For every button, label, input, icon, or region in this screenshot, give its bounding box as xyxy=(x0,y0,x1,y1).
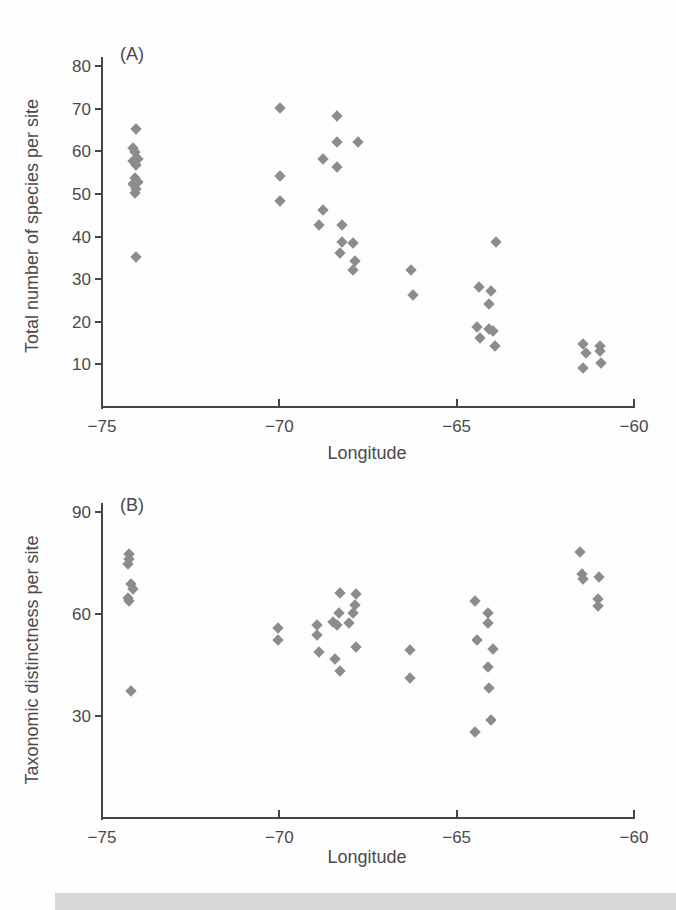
data-point-diamond xyxy=(313,646,324,657)
panel-b-label: (B) xyxy=(120,496,144,514)
data-point-diamond xyxy=(352,136,363,147)
data-point-diamond xyxy=(475,332,486,343)
data-point-diamond xyxy=(595,346,606,357)
data-point-diamond xyxy=(351,641,362,652)
data-point-diamond xyxy=(471,321,482,332)
data-point-diamond xyxy=(347,264,358,275)
data-point-diamond xyxy=(351,589,362,600)
x-tick-label: −65 xyxy=(442,418,471,435)
data-point-diamond xyxy=(482,618,493,629)
data-point-diamond xyxy=(274,170,285,181)
panel-a-ylabel: Total number of species per site xyxy=(22,56,42,396)
y-tick-label: 90 xyxy=(57,504,91,521)
panel-a-label: (A) xyxy=(120,45,144,63)
data-point-diamond xyxy=(335,247,346,258)
y-tick xyxy=(95,150,101,152)
data-point-diamond xyxy=(489,341,500,352)
data-point-diamond xyxy=(485,285,496,296)
x-tick-label: −75 xyxy=(88,829,117,846)
data-point-diamond xyxy=(331,162,342,173)
data-point-diamond xyxy=(333,607,344,618)
y-tick xyxy=(95,321,101,323)
data-point-diamond xyxy=(578,362,589,373)
y-tick xyxy=(95,193,101,195)
y-tick-label: 60 xyxy=(57,143,91,160)
data-point-diamond xyxy=(274,102,285,113)
data-point-diamond xyxy=(592,601,603,612)
y-tick-label: 20 xyxy=(57,313,91,330)
x-tick xyxy=(456,810,458,817)
y-tick-label: 10 xyxy=(57,356,91,373)
x-tick xyxy=(633,810,635,817)
data-point-diamond xyxy=(484,682,495,693)
x-tick xyxy=(633,399,635,406)
data-point-diamond xyxy=(407,290,418,301)
data-point-diamond xyxy=(335,587,346,598)
y-tick-label: 50 xyxy=(57,185,91,202)
y-tick xyxy=(95,715,101,717)
data-point-diamond xyxy=(491,236,502,247)
y-tick-label: 30 xyxy=(57,271,91,288)
y-axis-line xyxy=(101,57,103,409)
data-point-diamond xyxy=(335,665,346,676)
data-point-diamond xyxy=(404,645,415,656)
panel-b-xlabel: Longitude xyxy=(327,848,406,866)
data-point-diamond xyxy=(470,595,481,606)
bottom-bar xyxy=(55,893,676,910)
data-point-diamond xyxy=(485,714,496,725)
y-tick xyxy=(95,65,101,67)
data-point-diamond xyxy=(337,219,348,230)
y-tick-label: 70 xyxy=(57,100,91,117)
y-tick-label: 40 xyxy=(57,228,91,245)
data-point-diamond xyxy=(594,572,605,583)
data-point-diamond xyxy=(578,573,589,584)
y-tick xyxy=(95,236,101,238)
data-point-diamond xyxy=(487,326,498,337)
data-point-diamond xyxy=(470,726,481,737)
x-tick-label: −65 xyxy=(442,829,471,846)
data-point-diamond xyxy=(337,236,348,247)
x-axis-line xyxy=(101,406,635,408)
data-point-diamond xyxy=(317,204,328,215)
panel-a-xlabel: Longitude xyxy=(327,444,406,462)
data-point-diamond xyxy=(313,219,324,230)
data-point-diamond xyxy=(273,623,284,634)
two-panel-scatter-figure: (A) Total number of species per site Lon… xyxy=(0,0,676,910)
y-tick xyxy=(95,108,101,110)
y-tick xyxy=(95,613,101,615)
data-point-diamond xyxy=(404,672,415,683)
data-point-diamond xyxy=(473,281,484,292)
x-tick xyxy=(456,399,458,406)
y-tick xyxy=(95,363,101,365)
data-point-diamond xyxy=(331,110,342,121)
data-point-diamond xyxy=(273,635,284,646)
data-point-diamond xyxy=(329,653,340,664)
data-point-diamond xyxy=(131,251,142,262)
data-point-diamond xyxy=(347,237,358,248)
y-tick xyxy=(95,511,101,513)
data-point-diamond xyxy=(125,686,136,697)
data-point-diamond xyxy=(317,153,328,164)
data-point-diamond xyxy=(131,123,142,134)
data-point-diamond xyxy=(471,635,482,646)
x-tick xyxy=(278,810,280,817)
data-point-diamond xyxy=(331,136,342,147)
data-point-diamond xyxy=(406,264,417,275)
data-point-diamond xyxy=(484,298,495,309)
y-tick-label: 80 xyxy=(57,58,91,75)
x-tick xyxy=(278,399,280,406)
data-point-diamond xyxy=(482,662,493,673)
data-point-diamond xyxy=(595,358,606,369)
y-tick xyxy=(95,278,101,280)
data-point-diamond xyxy=(312,629,323,640)
y-axis-line xyxy=(101,503,103,820)
y-tick-label: 30 xyxy=(57,708,91,725)
x-tick-label: −70 xyxy=(265,418,294,435)
data-point-diamond xyxy=(344,618,355,629)
data-point-diamond xyxy=(274,196,285,207)
x-axis-line xyxy=(101,817,635,819)
x-tick-label: −70 xyxy=(265,829,294,846)
x-tick-label: −60 xyxy=(620,829,649,846)
data-point-diamond xyxy=(574,546,585,557)
panel-b-ylabel: Taxonomic distinctness per site xyxy=(22,490,42,830)
